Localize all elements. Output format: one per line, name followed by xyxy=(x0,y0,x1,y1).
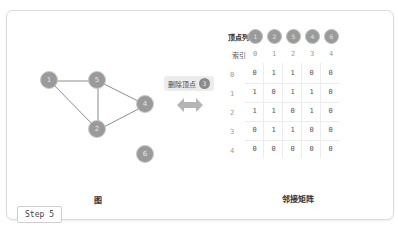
row-index: 0 xyxy=(227,71,237,79)
operation-label: 删除顶点 3 xyxy=(164,76,214,91)
matrix-cell: 0 xyxy=(264,140,283,159)
row-index: 3 xyxy=(227,128,237,136)
row-index: 1 xyxy=(227,90,237,98)
matrix-cell: 1 xyxy=(283,83,302,102)
matrix-cell: 0 xyxy=(283,102,302,121)
matrix-cell: 0 xyxy=(302,121,321,140)
matrix-cell: 1 xyxy=(264,121,283,140)
matrix-cell: 0 xyxy=(245,140,264,159)
matrix-cell: 1 xyxy=(264,64,283,83)
graph-node-1: 1 xyxy=(40,71,58,89)
row-index: 2 xyxy=(227,109,237,117)
matrix-caption: 邻接矩阵 xyxy=(282,193,314,204)
graph-node-2: 2 xyxy=(88,120,106,138)
row-index: 4 xyxy=(227,147,237,155)
vertex-list-item: 5 xyxy=(286,29,301,44)
matrix-cell: 0 xyxy=(321,121,340,140)
vertex-list-item: 6 xyxy=(324,29,339,44)
matrix-cell: 1 xyxy=(264,102,283,121)
col-index: 4 xyxy=(326,50,336,58)
index-label: 索引 xyxy=(232,50,246,60)
vertex-list-item: 4 xyxy=(305,29,320,44)
operation-text: 删除顶点 xyxy=(168,79,196,89)
matrix-cell: 0 xyxy=(302,140,321,159)
matrix-cell: 1 xyxy=(283,121,302,140)
matrix-cell: 0 xyxy=(321,140,340,159)
matrix-cell: 1 xyxy=(245,83,264,102)
matrix-cell: 1 xyxy=(245,102,264,121)
graph-node-4: 4 xyxy=(136,95,154,113)
matrix-cell: 0 xyxy=(264,83,283,102)
matrix-cell: 0 xyxy=(245,121,264,140)
matrix-cell: 0 xyxy=(283,140,302,159)
col-index: 2 xyxy=(288,50,298,58)
matrix-cell: 0 xyxy=(321,102,340,121)
matrix-cell: 1 xyxy=(302,83,321,102)
step-indicator: Step 5 xyxy=(17,206,62,223)
matrix-cell: 0 xyxy=(302,64,321,83)
matrix-cell: 1 xyxy=(302,102,321,121)
matrix-cell: 1 xyxy=(283,64,302,83)
col-index: 0 xyxy=(250,50,260,58)
vertex-list-item: 1 xyxy=(248,29,263,44)
col-index: 1 xyxy=(269,50,279,58)
graph-caption: 图 xyxy=(94,194,102,205)
graph-node-6: 6 xyxy=(136,145,154,163)
matrix-cell: 0 xyxy=(321,83,340,102)
operation-badge: 3 xyxy=(199,78,210,89)
vertex-list-item: 2 xyxy=(267,29,282,44)
matrix-cell: 0 xyxy=(245,64,264,83)
col-index: 3 xyxy=(307,50,317,58)
graph-node-5: 5 xyxy=(88,71,106,89)
matrix-cell: 0 xyxy=(321,64,340,83)
double-arrow-icon xyxy=(177,98,203,112)
